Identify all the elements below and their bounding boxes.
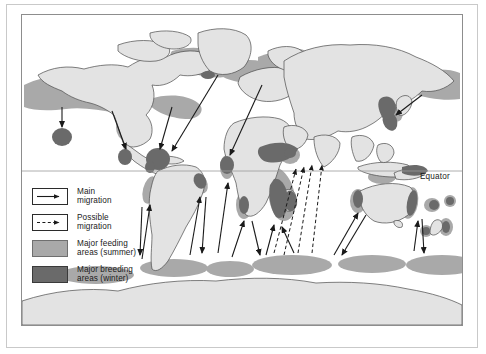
breeding-kermadec-core	[442, 221, 450, 233]
antarctic-band-3	[206, 261, 254, 277]
antarctic-band-4	[252, 255, 332, 275]
breeding-west-australia-core	[353, 190, 363, 208]
breeding-area-swatch	[32, 266, 68, 283]
antarctic-band-6	[406, 255, 462, 275]
breeding-baja-south	[118, 149, 132, 165]
arrow-antarctic-guinea	[218, 183, 228, 253]
arrow-antarctic-mozambique	[266, 225, 274, 255]
feeding-area-swatch	[32, 240, 68, 257]
map-legend: Main migration Possible migration	[32, 187, 160, 293]
legend-label-main-migration: Main migration	[77, 187, 112, 206]
breeding-greenland-coast	[201, 71, 215, 79]
legend-item-breeding-areas: Major breeding areas (winter)	[32, 265, 160, 290]
possible-arrow-indian-1	[298, 165, 312, 253]
breeding-fiji-core	[429, 200, 439, 210]
breeding-oman	[284, 148, 296, 158]
breeding-tonga-core	[446, 197, 454, 205]
arrow-antarctic-madagascar	[282, 227, 294, 253]
dashed-arrow-icon	[32, 214, 68, 231]
possible-arrow-indian-2	[312, 165, 322, 253]
equator-label: Equator	[420, 172, 450, 181]
arrow-brazil-south	[202, 197, 206, 253]
legend-item-possible-migration: Possible migration	[32, 213, 160, 238]
arrow-africa-south	[252, 221, 260, 255]
solid-arrow-icon	[32, 188, 68, 205]
breeding-namibia	[239, 196, 249, 214]
legend-item-feeding-areas: Major feeding areas (summer)	[32, 239, 160, 264]
breeding-madagascar-coast	[286, 191, 298, 212]
land-tasmania	[394, 220, 403, 227]
legend-item-main-migration: Main migration	[32, 187, 160, 212]
land-philippines	[377, 143, 394, 162]
breeding-hawaii	[52, 128, 72, 146]
legend-label-feeding-areas: Major feeding areas (summer)	[77, 239, 136, 258]
land-india	[314, 135, 340, 167]
antarctic-band-5	[338, 255, 406, 273]
figure-page: Equator Main migration	[0, 0, 486, 354]
legend-label-possible-migration: Possible migration	[77, 213, 112, 232]
land-southeast-asia	[351, 135, 374, 161]
arrow-antarctic-east-australia	[414, 221, 418, 251]
arrow-antarctic-namibia	[232, 221, 244, 257]
legend-label-breeding-areas: Major breeding areas (winter)	[77, 265, 133, 284]
world-map: Equator Main migration	[21, 14, 463, 326]
